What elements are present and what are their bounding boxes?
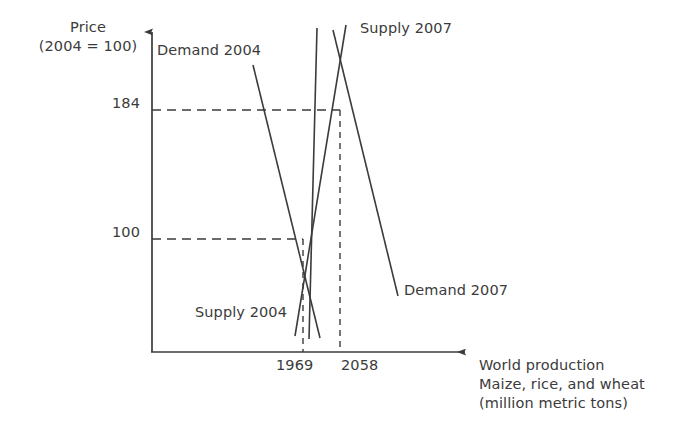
demand-2004-label: Demand 2004: [157, 41, 261, 60]
y-axis-title-line1: Price: [26, 18, 150, 37]
demand-2007-curve: [333, 30, 398, 296]
x-axis-title: World production Maize, rice, and wheat …: [479, 356, 679, 413]
y-tick-label-184: 184: [88, 94, 140, 113]
supply-2007-curve: [295, 25, 346, 336]
supply-demand-chart: Price (2004 = 100) 184 100 Demand 2004 S…: [0, 0, 684, 439]
supply-2004-curve: [309, 28, 317, 339]
supply-2004-label: Supply 2004: [195, 303, 287, 322]
x-tick-label-1969: 1969: [276, 356, 313, 375]
x-axis-title-line2: Maize, rice, and wheat: [479, 375, 679, 394]
x-axis-title-line1: World production: [479, 356, 679, 375]
supply-2007-label: Supply 2007: [360, 19, 452, 38]
y-axis-title: Price (2004 = 100): [26, 18, 150, 56]
y-tick-label-100: 100: [88, 223, 140, 242]
x-axis-title-line3: (million metric tons): [479, 394, 679, 413]
demand-2007-label: Demand 2007: [404, 281, 508, 300]
x-tick-label-2058: 2058: [341, 356, 378, 375]
y-axis-title-line2: (2004 = 100): [26, 37, 150, 56]
